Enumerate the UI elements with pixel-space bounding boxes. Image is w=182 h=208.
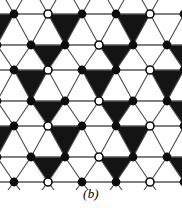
lattice-node-open	[146, 122, 154, 130]
lattice-diagram	[0, 0, 182, 190]
lattice-node-filled	[78, 10, 87, 19]
lattice-node-filled	[61, 97, 70, 106]
lattice-node-open	[44, 122, 52, 130]
lattice-node-open	[95, 153, 103, 161]
lattice-node-filled	[112, 10, 121, 19]
lattice-node-open	[95, 41, 103, 49]
lattice-node-filled	[10, 122, 19, 131]
lattice-node-open	[146, 66, 154, 74]
lattice-node-open	[146, 10, 154, 18]
lattice-node-open	[44, 10, 52, 18]
lattice-node-filled	[27, 153, 36, 162]
lattice-node-open	[44, 66, 52, 74]
lattice-node-filled	[61, 41, 70, 50]
lattice-figure: (b)	[0, 0, 182, 208]
lattice-node-filled	[10, 66, 19, 75]
lattice-node-filled	[163, 97, 172, 106]
lattice-node-filled	[10, 10, 19, 19]
lattice-node-filled	[27, 97, 36, 106]
lattice-node-open	[146, 178, 154, 186]
lattice-node-filled	[112, 122, 121, 131]
lattice-node-filled	[129, 153, 138, 162]
lattice-node-filled	[129, 41, 138, 50]
lattice-node-filled	[129, 97, 138, 106]
figure-caption: (b)	[0, 186, 182, 202]
lattice-node-open	[95, 97, 103, 105]
lattice-node-filled	[163, 153, 172, 162]
lattice-node-filled	[78, 66, 87, 75]
lattice-node-filled	[27, 41, 36, 50]
lattice-node-filled	[78, 122, 87, 131]
lattice-node-filled	[112, 66, 121, 75]
lattice-node-filled	[163, 41, 172, 50]
lattice-node-open	[44, 178, 52, 186]
lattice-node-filled	[61, 153, 70, 162]
